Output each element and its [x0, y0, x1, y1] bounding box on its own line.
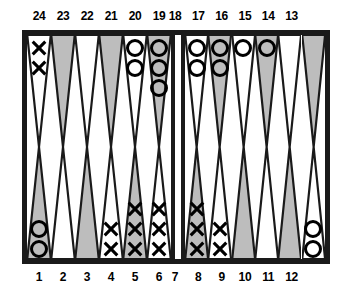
point-number-10: 10: [234, 268, 256, 286]
point-1[interactable]: [27, 147, 51, 259]
point-triangle-5: [123, 147, 147, 259]
point-number-22: 22: [76, 7, 98, 25]
point-number-14: 14: [257, 7, 279, 25]
point-number-16: 16: [211, 7, 233, 25]
point-triangle-1: [27, 147, 51, 259]
point-number-21: 21: [100, 7, 122, 25]
point-number-13: 13: [281, 7, 303, 25]
point-16[interactable]: [232, 35, 255, 147]
point-triangle-19: [147, 35, 171, 147]
point-triangle-17: [208, 35, 231, 147]
point-triangle-24: [27, 35, 51, 147]
point-number-7: 7: [164, 268, 186, 286]
point-triangle-2: [51, 147, 75, 259]
quadrant-top-right: [185, 35, 325, 147]
point-number-5: 5: [124, 268, 146, 286]
point-number-2: 2: [52, 268, 74, 286]
point-triangle-14: [278, 35, 301, 147]
point-triangle-4: [99, 147, 123, 259]
point-triangle-21: [99, 35, 123, 147]
point-12[interactable]: [302, 147, 325, 259]
point-3[interactable]: [75, 147, 99, 259]
playing-field: [27, 35, 325, 259]
point-20[interactable]: [123, 35, 147, 147]
point-8[interactable]: [208, 147, 231, 259]
point-triangle-3: [75, 147, 99, 259]
point-4[interactable]: [99, 147, 123, 259]
point-triangle-18: [185, 35, 208, 147]
point-triangle-20: [123, 35, 147, 147]
point-triangle-13: [302, 35, 325, 147]
point-number-11: 11: [257, 268, 279, 286]
point-number-24: 24: [28, 7, 50, 25]
point-5[interactable]: [123, 147, 147, 259]
point-13[interactable]: [302, 35, 325, 147]
point-6[interactable]: [147, 147, 171, 259]
point-21[interactable]: [99, 35, 123, 147]
board-frame: [22, 30, 330, 264]
point-number-17: 17: [187, 7, 209, 25]
point-17[interactable]: [208, 35, 231, 147]
center-bar[interactable]: [171, 35, 185, 259]
point-19[interactable]: [147, 35, 171, 147]
point-triangle-12: [302, 147, 325, 259]
point-9[interactable]: [232, 147, 255, 259]
point-number-23: 23: [52, 7, 74, 25]
point-number-3: 3: [76, 268, 98, 286]
quadrant-bottom-right: [185, 147, 325, 259]
top-point-numbers: 242322212019181716151413: [0, 7, 352, 25]
point-triangle-6: [147, 147, 171, 259]
point-triangle-22: [75, 35, 99, 147]
point-number-12: 12: [281, 268, 303, 286]
point-triangle-10: [255, 147, 278, 259]
point-18[interactable]: [185, 35, 208, 147]
point-11[interactable]: [278, 147, 301, 259]
quadrant-top-left: [27, 35, 171, 147]
point-10[interactable]: [255, 147, 278, 259]
point-triangle-11: [278, 147, 301, 259]
point-24[interactable]: [27, 35, 51, 147]
point-number-1: 1: [28, 268, 50, 286]
point-number-18: 18: [164, 7, 186, 25]
point-triangle-8: [208, 147, 231, 259]
point-number-4: 4: [100, 268, 122, 286]
point-triangle-7: [185, 147, 208, 259]
backgammon-diagram: 242322212019181716151413 123456789101112: [0, 0, 352, 300]
point-triangle-15: [255, 35, 278, 147]
point-22[interactable]: [75, 35, 99, 147]
point-number-20: 20: [124, 7, 146, 25]
point-triangle-16: [232, 35, 255, 147]
point-2[interactable]: [51, 147, 75, 259]
point-number-8: 8: [187, 268, 209, 286]
point-number-9: 9: [211, 268, 233, 286]
point-triangle-9: [232, 147, 255, 259]
point-14[interactable]: [278, 35, 301, 147]
bottom-point-numbers: 123456789101112: [0, 268, 352, 286]
point-triangle-23: [51, 35, 75, 147]
quadrant-bottom-left: [27, 147, 171, 259]
point-number-15: 15: [234, 7, 256, 25]
point-23[interactable]: [51, 35, 75, 147]
point-15[interactable]: [255, 35, 278, 147]
point-7[interactable]: [185, 147, 208, 259]
